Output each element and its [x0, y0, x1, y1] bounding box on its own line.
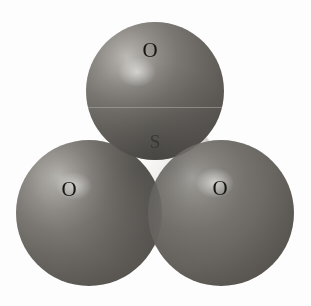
molecule-stage: O S O O: [0, 0, 311, 306]
atom-sphere-oxygen-bottom-left: [16, 140, 162, 286]
atom-label-oxygen-bottom-right: O: [209, 178, 231, 199]
atom-label-oxygen-top: O: [139, 40, 161, 61]
atom-label-oxygen-bottom-left: O: [58, 179, 80, 200]
atom-label-sulfur-center: S: [145, 132, 165, 151]
molecular-model-figure: O S O O: [0, 0, 311, 306]
atom-sphere-oxygen-bottom-right: [148, 140, 294, 286]
